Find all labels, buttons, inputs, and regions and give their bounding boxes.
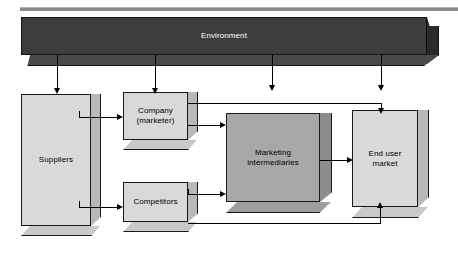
node-company[interactable]: Company (marketer) — [123, 92, 188, 140]
edge-competitors-to-enduser-riser — [380, 207, 381, 224]
edge-company-to-intermediaries-line — [188, 125, 222, 126]
edge-intermediaries-to-enduser-line — [320, 160, 350, 161]
node-competitors-label: Competitors — [133, 197, 177, 207]
competitors-bottom-face — [123, 222, 197, 232]
edge-environment-to-suppliers-line — [57, 55, 58, 88]
competitors-right-face — [188, 182, 198, 222]
edge-competitors-to-enduser-line — [188, 223, 381, 224]
edge-suppliers-to-company-line — [79, 117, 119, 118]
node-marketing-intermediaries[interactable]: Marketing intermediaries — [226, 113, 320, 202]
enduser-front-face: End user market — [352, 110, 418, 207]
diagram-canvas: Environment Suppliers Company (marketer) — [0, 0, 458, 259]
edge-environment-to-enduser-arrowhead — [378, 85, 384, 91]
node-company-label: Company (marketer) — [137, 106, 175, 126]
edge-environment-to-intermediaries-arrowhead — [269, 85, 275, 91]
environment-front-face: Environment — [21, 17, 427, 55]
edge-suppliers-to-company-riser — [79, 111, 80, 118]
competitors-front-face: Competitors — [123, 182, 188, 222]
node-end-user-market-label: End user market — [369, 149, 402, 169]
edge-suppliers-to-competitors-line — [79, 207, 119, 208]
top-divider-rule — [20, 7, 458, 11]
edge-competitors-to-enduser-arrowhead — [377, 202, 383, 208]
edge-environment-to-suppliers-arrowhead — [54, 88, 60, 94]
edge-suppliers-to-competitors-riser — [79, 201, 80, 208]
suppliers-bottom-face — [21, 226, 100, 236]
edge-environment-to-company-arrowhead — [152, 88, 158, 94]
edge-competitors-to-intermediaries-riser — [188, 189, 189, 195]
edge-environment-to-enduser-line — [381, 55, 382, 85]
edge-company-to-enduser-arrowhead — [378, 108, 384, 114]
edge-competitors-to-intermediaries-line — [188, 194, 222, 195]
edge-company-to-enduser-line — [188, 103, 381, 104]
edge-company-to-intermediaries-arrowhead — [220, 122, 226, 128]
edge-suppliers-to-company-arrowhead — [117, 114, 123, 120]
intermediaries-front-face: Marketing intermediaries — [226, 113, 320, 202]
node-suppliers-label: Suppliers — [39, 155, 73, 165]
intermediaries-bottom-face — [226, 202, 331, 213]
node-marketing-intermediaries-label: Marketing intermediaries — [247, 148, 299, 168]
company-front-face: Company (marketer) — [123, 92, 188, 140]
node-competitors[interactable]: Competitors — [123, 182, 188, 222]
edge-intermediaries-to-enduser-arrowhead — [347, 157, 353, 163]
enduser-bottom-face — [352, 207, 428, 218]
node-environment-label: Environment — [201, 31, 247, 41]
edge-environment-to-intermediaries-line — [272, 55, 273, 85]
enduser-right-face — [418, 110, 429, 207]
intermediaries-right-face — [320, 113, 332, 202]
edge-suppliers-to-competitors-arrowhead — [117, 204, 123, 210]
edge-competitors-to-intermediaries-arrowhead — [220, 191, 226, 197]
node-environment[interactable]: Environment — [21, 17, 427, 55]
edge-environment-to-company-line — [155, 55, 156, 88]
environment-bottom-face — [20, 55, 438, 66]
node-end-user-market[interactable]: End user market — [352, 110, 418, 207]
company-right-face — [188, 92, 198, 140]
company-bottom-face — [123, 140, 197, 150]
